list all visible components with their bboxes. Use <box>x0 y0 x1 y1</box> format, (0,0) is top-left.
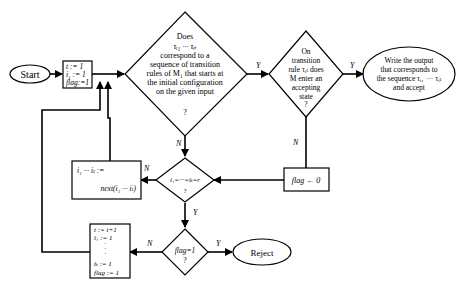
q1-line-4: sequence of transition <box>150 60 220 69</box>
q1-line-3: correspond to a <box>160 51 210 60</box>
label-q3-yes: Y <box>193 208 199 217</box>
label-q1-no: N <box>175 139 182 148</box>
accept-line-3: the sequence τᵢ₁ ··· τᵢₜ <box>377 74 442 83</box>
reset-line-6: iₜ := 1 <box>94 260 112 268</box>
q1-line-7: on the given input <box>156 87 215 96</box>
q1-question-mark: ? <box>183 108 187 117</box>
start-node: Start <box>10 65 50 83</box>
edge-next-loop <box>108 82 110 161</box>
next-line-1: i₁ ··· iₜ := <box>77 166 104 175</box>
label-q2-no: N <box>292 138 299 147</box>
accept-line-4: and accept <box>393 83 426 92</box>
next-box: i₁ ··· iₜ := next(i₁ ··· iₜ) <box>72 161 141 199</box>
label-q2-yes: Y <box>350 61 356 70</box>
reset-box: t := t+1 i₁ := 1 · · · iₜ := 1 flag := 1 <box>90 224 130 278</box>
label-q3-no: N <box>143 164 150 173</box>
q1-line-5: rules of M₁ that starts at <box>147 69 225 78</box>
q2-line-5: accepting <box>292 83 321 92</box>
label-q4-no: N <box>146 239 153 248</box>
start-label: Start <box>21 69 40 80</box>
flag0-label: flag ← 0 <box>292 176 320 185</box>
accept-line-2: that corresponds to <box>380 65 437 74</box>
decision-q1: Does τᵢ₁ ··· τᵢₜ correspond to a sequenc… <box>125 12 247 136</box>
q2-line-3: rule τᵢₜ does <box>288 65 323 74</box>
q3-question-mark: ? <box>183 187 186 195</box>
decision-q4: flag=1 ? <box>162 229 208 275</box>
q1-line-2: τᵢ₁ ··· τᵢₜ <box>173 42 196 51</box>
q4-line-1: flag=1 <box>175 246 195 255</box>
reset-line-1: t := t+1 <box>94 226 117 234</box>
reject-label: Reject <box>251 248 274 258</box>
decision-q3: i₁=···=iₜ=r ? <box>156 158 214 202</box>
q2-line-2: transition <box>292 56 321 65</box>
flag-reset-box: flag ← 0 <box>284 168 329 191</box>
init-box: t := 1 i₁ := 1 flag:=1 <box>63 61 92 88</box>
init-line-3: flag:=1 <box>66 78 89 87</box>
accept-node: Write the output that corresponds to the… <box>363 47 455 101</box>
accept-line-1: Write the output <box>385 56 435 65</box>
q1-line-6: the initial configuration <box>147 78 223 87</box>
reject-node: Reject <box>233 239 291 265</box>
reset-line-7: flag := 1 <box>94 269 119 277</box>
label-q4-yes: Y <box>216 239 222 248</box>
q3-line-1: i₁=···=iₜ=r <box>170 176 200 184</box>
q1-line-1: Does <box>177 32 193 41</box>
label-q1-yes: Y <box>256 61 262 70</box>
q2-line-4: M enter an <box>290 74 323 83</box>
next-line-2: next(i₁ ··· iₜ) <box>101 184 137 193</box>
flowchart: Start t := 1 i₁ := 1 flag:=1 Does τᵢ₁ ··… <box>0 0 468 299</box>
reset-dot-3: · <box>104 250 106 258</box>
decision-q2: On transition rule τᵢₜ does M enter an a… <box>269 31 343 117</box>
q2-line-1: On <box>301 47 310 56</box>
